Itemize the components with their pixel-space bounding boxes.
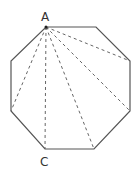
label-a: A xyxy=(41,10,50,24)
diagonal-a-v4 xyxy=(46,27,130,111)
diagonal-a-v5 xyxy=(46,27,94,149)
octagon-outline xyxy=(11,27,130,149)
vertex-a-dot xyxy=(45,26,48,29)
diagonal-a-v7 xyxy=(11,27,46,111)
label-c: C xyxy=(40,155,48,169)
diagonal-a-c xyxy=(45,27,46,149)
octagon-diagram: A C xyxy=(0,0,136,173)
diagonal-a-v3 xyxy=(46,27,130,61)
